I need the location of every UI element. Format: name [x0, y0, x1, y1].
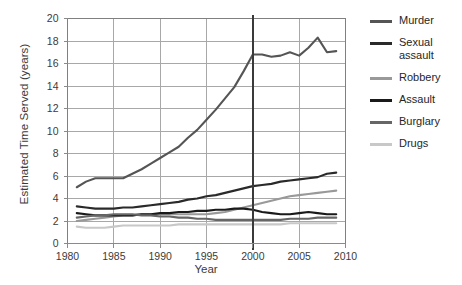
legend-swatch-line-icon [370, 143, 392, 146]
legend-item: Robbery [370, 71, 462, 84]
x-tick-label: 2000 [233, 251, 273, 262]
y-tick-label: 16 [29, 58, 59, 69]
y-tick-label: 20 [29, 13, 59, 24]
legend-swatch-line-icon [370, 121, 392, 124]
x-tick-label: 1985 [94, 251, 134, 262]
y-tick-label: 14 [29, 81, 59, 92]
y-tick-label: 18 [29, 36, 59, 47]
x-tick-label: 2005 [279, 251, 319, 262]
legend-item: Drugs [370, 137, 462, 150]
y-tick-label: 2 [29, 216, 59, 227]
x-tick-label: 1980 [48, 251, 88, 262]
y-tick-label: 6 [29, 171, 59, 182]
legend-label: Robbery [399, 71, 441, 84]
y-tick-label: 10 [29, 126, 59, 137]
x-axis-title: Year [67, 263, 345, 275]
legend-swatch-line-icon [370, 42, 392, 45]
x-tick-label: 2010 [326, 251, 366, 262]
legend-label: Sexual assault [399, 36, 434, 62]
legend-label: Drugs [399, 137, 428, 150]
legend-item: Murder [370, 14, 462, 27]
x-tick-label: 1990 [140, 251, 180, 262]
legend-item: Assault [370, 93, 462, 106]
y-tick-label: 4 [29, 193, 59, 204]
y-tick-label: 0 [29, 238, 59, 249]
legend-swatch-line-icon [370, 20, 392, 23]
legend-label: Burglary [399, 115, 440, 128]
chart-legend: MurderSexual assaultRobberyAssaultBurgla… [370, 14, 462, 159]
legend-item: Sexual assault [370, 36, 462, 62]
legend-item: Burglary [370, 115, 462, 128]
y-tick-label: 8 [29, 148, 59, 159]
legend-label: Assault [399, 93, 435, 106]
legend-swatch-line-icon [370, 77, 392, 80]
legend-label: Murder [399, 14, 434, 27]
legend-swatch-line-icon [370, 99, 392, 102]
line-chart: Estimated Time Served (years) 0246810121… [0, 0, 462, 285]
x-tick-label: 1995 [187, 251, 227, 262]
y-tick-label: 12 [29, 103, 59, 114]
